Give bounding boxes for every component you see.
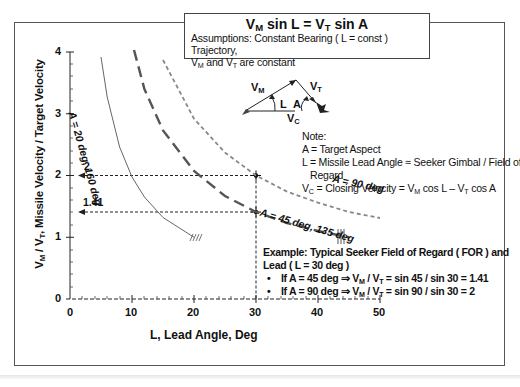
x-tick-10: 10 bbox=[125, 306, 137, 318]
diagram-angle-l: L bbox=[280, 98, 287, 110]
y-tick-2: 2 bbox=[55, 168, 61, 180]
note-block: Note: A = Target Aspect L = Missile Lead… bbox=[302, 130, 502, 195]
example-block: Example: Typical Seeker Field of Regard … bbox=[263, 246, 509, 298]
diagram-angle-a: A bbox=[293, 98, 301, 110]
curve-a20 bbox=[101, 57, 194, 237]
y-tick-4: 4 bbox=[55, 45, 61, 57]
assumptions-text: Assumptions: Constant Bearing ( L = cons… bbox=[191, 32, 423, 68]
hatch-a20 bbox=[190, 234, 202, 241]
equation-title: VM sin L = VT sin A bbox=[191, 16, 423, 32]
diagram-vt-label: VT bbox=[310, 80, 322, 92]
arrow-head-141 bbox=[78, 209, 85, 215]
y-tick-1: 1 bbox=[55, 230, 61, 242]
x-tick-50: 50 bbox=[373, 306, 385, 318]
x-axis-label: L, Lead Angle, Deg bbox=[150, 328, 258, 342]
y-axis-label: VM / VT, Missile Velocity / Target Veloc… bbox=[33, 59, 45, 269]
diagram-vc-label: VC bbox=[287, 112, 300, 124]
x-tick-40: 40 bbox=[311, 306, 323, 318]
y-tick-3: 3 bbox=[55, 107, 61, 119]
title-box: VM sin L = VT sin A Assumptions: Constan… bbox=[184, 13, 430, 59]
x-tick-0: 0 bbox=[67, 306, 73, 318]
x-tick-30: 30 bbox=[249, 306, 261, 318]
y-tick-0: 0 bbox=[55, 292, 61, 304]
x-tick-20: 20 bbox=[187, 306, 199, 318]
reference-lines bbox=[80, 176, 256, 300]
diagram-vm-label: VM bbox=[251, 81, 265, 93]
